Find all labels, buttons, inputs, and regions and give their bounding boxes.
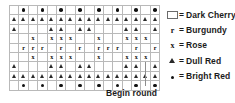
symbol-x-icon: x xyxy=(123,34,131,42)
symbol-blank-icon xyxy=(85,6,93,14)
symbol-blank-icon xyxy=(48,81,56,89)
chart-cell-blank xyxy=(103,24,112,33)
chart-cell-r: r xyxy=(38,43,47,52)
symbol-tri-icon xyxy=(151,25,159,33)
chart-cell-tri xyxy=(94,15,103,24)
chart-cell-dot xyxy=(38,6,47,15)
chart-row: rrrrrrrrrr xyxy=(10,43,160,52)
chart-cell-tri xyxy=(10,62,19,71)
chart-cell-blank xyxy=(103,34,112,43)
symbol-tri-icon xyxy=(10,62,18,70)
symbol-tri-icon xyxy=(57,72,65,80)
begin-round-tick xyxy=(145,62,146,86)
symbol-x-icon: x xyxy=(95,53,103,61)
legend-symbol-dot-icon xyxy=(167,71,178,82)
symbol-blank-icon xyxy=(29,62,37,70)
legend-label: Dull Red xyxy=(186,56,221,66)
symbol-tri-icon xyxy=(10,25,18,33)
symbol-tri-icon xyxy=(85,15,93,23)
chart-cell-blank xyxy=(28,81,37,90)
chart-cell-tri xyxy=(47,71,56,80)
chart-cell-x: x xyxy=(56,52,65,61)
symbol-x-icon: x xyxy=(48,53,56,61)
chart-cell-tri xyxy=(47,24,56,33)
symbol-blank-icon xyxy=(113,53,121,61)
legend-item-blank: =Dark Cherry xyxy=(167,7,235,22)
chart-cell-tri xyxy=(132,62,141,71)
symbol-dot-icon xyxy=(76,6,84,14)
chart-cell-tri xyxy=(66,15,75,24)
symbol-dot-icon xyxy=(57,6,65,14)
symbol-blank-icon xyxy=(19,34,27,42)
symbol-blank-icon xyxy=(85,44,93,52)
chart-grid-body: xxxxxxxxrrrrrrrrrrxxxxxxxx xyxy=(10,6,160,91)
symbol-tri-icon xyxy=(95,72,103,80)
symbol-blank-icon xyxy=(95,62,103,70)
legend-label: Rose xyxy=(186,40,207,50)
chart-cell-blank xyxy=(85,34,94,43)
chart-cell-dot xyxy=(150,6,159,15)
chart-cell-blank xyxy=(122,6,131,15)
legend-label: Bright Red xyxy=(186,71,230,81)
symbol-x-icon: x xyxy=(29,53,37,61)
chart-cell-x: x xyxy=(141,52,150,61)
chart-cell-blank xyxy=(113,24,122,33)
symbol-blank-icon xyxy=(10,44,18,52)
chart-cell-dot xyxy=(132,6,141,15)
symbol-tri-icon xyxy=(132,25,140,33)
chart-row xyxy=(10,24,160,33)
chart-cell-tri xyxy=(150,62,159,71)
symbol-blank-icon xyxy=(95,25,103,33)
chart-cell-blank xyxy=(47,81,56,90)
symbol-blank-icon xyxy=(104,62,112,70)
chart-cell-blank xyxy=(38,24,47,33)
symbol-tri-icon xyxy=(29,72,37,80)
symbol-r-icon: r xyxy=(57,44,65,52)
symbol-dot-icon xyxy=(19,6,27,14)
chart-cell-blank xyxy=(141,43,150,52)
symbol-tri-icon xyxy=(123,62,131,70)
legend-item-dot: =Bright Red xyxy=(167,69,235,84)
chart-cell-r: r xyxy=(132,43,141,52)
legend-symbol-r-icon: r xyxy=(167,25,178,36)
chart-cell-tri xyxy=(85,71,94,80)
chart-cell-tri xyxy=(75,24,84,33)
symbol-tri-icon xyxy=(19,15,27,23)
symbol-x-icon: x xyxy=(123,53,131,61)
symbol-blank-icon xyxy=(104,6,112,14)
chart-cell-blank xyxy=(141,24,150,33)
symbol-dot-icon xyxy=(151,6,159,14)
symbol-tri-icon xyxy=(76,25,84,33)
chart-cell-blank xyxy=(94,62,103,71)
chart-cell-blank xyxy=(10,6,19,15)
legend-equals-sign: = xyxy=(179,71,184,81)
symbol-x-icon: x xyxy=(132,34,140,42)
begin-round-label: Begin round xyxy=(106,88,157,98)
chart-cell-blank xyxy=(75,34,84,43)
symbol-blank-icon xyxy=(66,81,74,89)
symbol-x-icon: x xyxy=(141,53,149,61)
chart-cell-x: x xyxy=(66,52,75,61)
symbol-blank-icon xyxy=(29,6,37,14)
chart-cell-tri xyxy=(103,15,112,24)
symbol-tri-icon xyxy=(113,15,121,23)
chart-cell-blank xyxy=(141,6,150,15)
symbol-blank-icon xyxy=(141,25,149,33)
symbol-blank-icon xyxy=(113,25,121,33)
symbol-x-icon: x xyxy=(66,34,74,42)
symbol-tri-icon xyxy=(76,15,84,23)
chart-cell-tri xyxy=(122,71,131,80)
chart-cell-tri xyxy=(132,24,141,33)
chart-cell-x: x xyxy=(28,34,37,43)
chart-cell-x: x xyxy=(56,34,65,43)
symbol-tri-icon xyxy=(85,62,93,70)
chart-cell-tri xyxy=(103,71,112,80)
chart-cell-dot xyxy=(19,6,28,15)
symbol-r-icon: r xyxy=(29,44,37,52)
chart-row: xxxxxxxx xyxy=(10,34,160,43)
symbol-blank-icon xyxy=(76,53,84,61)
legend-label: Burgundy xyxy=(186,25,227,35)
legend-symbol-x-icon: x xyxy=(167,40,178,51)
chart-cell-tri xyxy=(113,71,122,80)
chart-cell-tri xyxy=(85,62,94,71)
